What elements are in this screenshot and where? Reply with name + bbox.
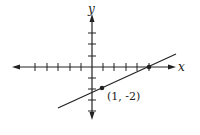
point-1-neg2	[100, 86, 105, 91]
y-axis-down-arrow-icon	[90, 112, 95, 120]
coordinate-plane: y x (1, -2)	[0, 0, 200, 135]
point-label: (1, -2)	[107, 90, 140, 103]
x-axis-left-arrow-icon	[12, 65, 20, 70]
x-axis-label: x	[178, 60, 185, 74]
x-axis-right-arrow-icon	[168, 65, 176, 70]
point-x-intercept	[147, 65, 152, 70]
y-axis-label: y	[87, 2, 95, 16]
